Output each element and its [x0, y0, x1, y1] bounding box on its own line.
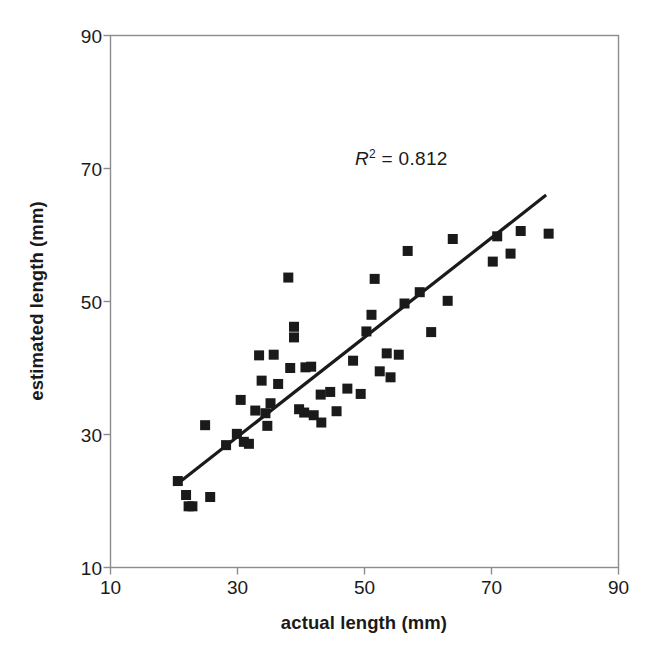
r-squared-exponent: 2 [369, 147, 376, 161]
data-point [181, 490, 191, 500]
r-squared-value: 0.812 [399, 148, 448, 169]
data-point [325, 387, 335, 397]
data-point [250, 406, 260, 416]
x-tick-label-30: 30 [213, 578, 263, 597]
data-point [244, 439, 254, 449]
data-point [257, 376, 267, 386]
data-point [236, 395, 246, 405]
r-squared-symbol: R [355, 148, 369, 169]
data-point [403, 246, 413, 256]
data-point [375, 366, 385, 376]
data-point [289, 322, 299, 332]
data-point [366, 310, 376, 320]
data-point [266, 398, 276, 408]
x-tick-label-50: 50 [340, 578, 390, 597]
data-point [316, 390, 326, 400]
data-point [221, 440, 231, 450]
plot-canvas [0, 0, 659, 667]
data-point [382, 348, 392, 358]
data-point [426, 327, 436, 337]
data-point [260, 408, 270, 418]
data-point [448, 234, 458, 244]
x-axis-title-text: actual length (mm) [281, 612, 447, 633]
data-point [361, 326, 371, 336]
data-point [488, 257, 498, 267]
data-point [342, 384, 352, 394]
tick-marks [104, 36, 619, 575]
data-point [269, 350, 279, 360]
data-point [205, 492, 215, 502]
scatter-plot-figure: estimated length (mm) 1030507090 R2 = 0.… [0, 0, 659, 667]
data-point [283, 273, 293, 283]
data-point [254, 350, 264, 360]
data-point [400, 298, 410, 308]
data-point [348, 356, 358, 366]
data-point [386, 372, 396, 382]
data-point [394, 350, 404, 360]
r-squared-equals: = [376, 148, 399, 169]
data-point [200, 420, 210, 430]
data-point [356, 389, 366, 399]
x-tick-label-10: 10 [86, 578, 136, 597]
data-point [316, 418, 326, 428]
x-tick-label-90: 90 [594, 578, 644, 597]
r-squared-annotation: R2 = 0.812 [355, 147, 448, 170]
data-point [289, 332, 299, 342]
data-point [506, 249, 516, 259]
data-point [173, 476, 183, 486]
data-point [415, 287, 425, 297]
data-point [273, 379, 283, 389]
data-point [492, 231, 502, 241]
data-point [516, 226, 526, 236]
x-axis-title: actual length (mm) [110, 612, 618, 634]
data-point [187, 501, 197, 511]
data-point [544, 229, 554, 239]
data-point [306, 362, 316, 372]
x-tick-label-70: 70 [467, 578, 517, 597]
plot-frame [111, 36, 619, 568]
linear-regression-line [178, 195, 546, 483]
data-point [262, 421, 272, 431]
data-point [332, 406, 342, 416]
x-axis-tick-labels: 1030507090 [0, 578, 659, 604]
data-point-group [173, 226, 554, 511]
data-point [443, 296, 453, 306]
data-point [299, 408, 309, 418]
data-point [285, 363, 295, 373]
data-point [370, 274, 380, 284]
